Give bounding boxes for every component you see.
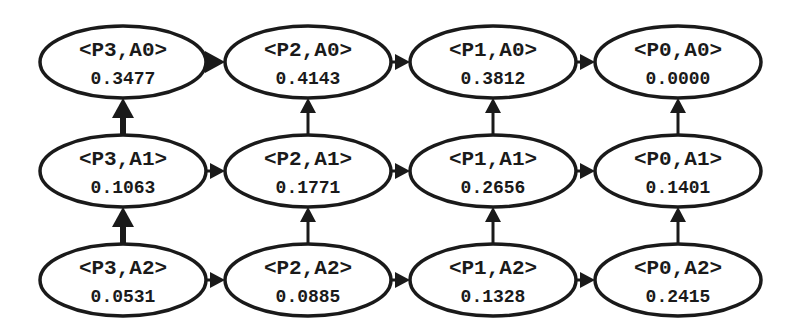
arrowhead-icon (210, 272, 225, 288)
node-value: 0.1328 (461, 287, 526, 307)
node-value: 0.1401 (646, 178, 711, 198)
edge-arrow (205, 51, 225, 73)
state-node: <P0,A1>0.1401 (595, 135, 761, 207)
node-label: <P3,A0> (79, 39, 167, 62)
arrowhead-icon (670, 207, 686, 222)
state-node: <P2,A2>0.0885 (225, 244, 391, 316)
node-value: 0.0531 (91, 287, 156, 307)
arrowhead-icon (112, 207, 134, 227)
node-label: <P1,A0> (449, 39, 537, 62)
node-label: <P1,A2> (449, 257, 537, 280)
node-label: <P2,A2> (264, 257, 352, 280)
node-label: <P3,A1> (79, 148, 167, 171)
arrowhead-icon (485, 98, 501, 113)
edge-arrow (391, 163, 410, 179)
edge-arrow (670, 98, 686, 135)
arrowhead-icon (395, 54, 410, 70)
edge-arrow (391, 272, 410, 288)
node-value: 0.0885 (276, 287, 341, 307)
edge-arrow (112, 207, 134, 244)
arrowhead-icon (205, 51, 225, 73)
node-value: 0.1063 (91, 178, 156, 198)
edge-arrow (485, 207, 501, 244)
state-node: <P0,A2>0.2415 (595, 244, 761, 316)
edge-arrow (576, 272, 595, 288)
edge-arrow (300, 207, 316, 244)
node-label: <P0,A2> (634, 257, 722, 280)
state-node: <P0,A0>0.0000 (595, 26, 761, 98)
node-value: 0.0000 (646, 69, 711, 89)
state-node: <P2,A1>0.1771 (225, 135, 391, 207)
arrowhead-icon (670, 98, 686, 113)
edge-arrow (576, 54, 595, 70)
arrowhead-icon (580, 272, 595, 288)
state-node: <P1,A2>0.1328 (410, 244, 576, 316)
arrowhead-icon (580, 163, 595, 179)
state-node: <P3,A0>0.3477 (40, 26, 206, 98)
node-label: <P0,A1> (634, 148, 722, 171)
node-value: 0.3477 (91, 69, 156, 89)
edge-arrow (670, 207, 686, 244)
edge-arrow (300, 98, 316, 135)
edge-arrow (576, 163, 595, 179)
node-label: <P3,A2> (79, 257, 167, 280)
edge-arrow (391, 54, 410, 70)
arrowhead-icon (300, 207, 316, 222)
node-label: <P2,A1> (264, 148, 352, 171)
edge-arrow (112, 98, 134, 135)
state-node: <P3,A2>0.0531 (40, 244, 206, 316)
node-value: 0.3812 (461, 69, 526, 89)
arrowhead-icon (395, 272, 410, 288)
state-node: <P1,A1>0.2656 (410, 135, 576, 207)
arrowhead-icon (580, 54, 595, 70)
node-value: 0.1771 (276, 178, 341, 198)
state-node: <P3,A1>0.1063 (40, 135, 206, 207)
node-value: 0.4143 (276, 69, 341, 89)
edge-arrow (485, 98, 501, 135)
node-label: <P2,A0> (264, 39, 352, 62)
arrowhead-icon (485, 207, 501, 222)
node-label: <P0,A0> (634, 39, 722, 62)
arrowhead-icon (112, 98, 134, 118)
state-node: <P2,A0>0.4143 (225, 26, 391, 98)
node-value: 0.2415 (646, 287, 711, 307)
arrowhead-icon (300, 98, 316, 113)
state-node: <P1,A0>0.3812 (410, 26, 576, 98)
arrowhead-icon (210, 163, 225, 179)
node-label: <P1,A1> (449, 148, 537, 171)
arrowhead-icon (395, 163, 410, 179)
edge-arrow (206, 272, 225, 288)
node-value: 0.2656 (461, 178, 526, 198)
edge-arrow (206, 163, 225, 179)
state-graph-diagram: <P3,A0>0.3477<P2,A0>0.4143<P1,A0>0.3812<… (0, 0, 788, 332)
